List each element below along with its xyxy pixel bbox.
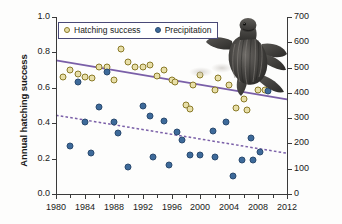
hatching-success-point <box>132 63 139 70</box>
precipitation-point <box>110 119 117 126</box>
precipitation-point <box>139 102 146 109</box>
hatching-success-point <box>67 67 74 74</box>
precipitation-point <box>161 118 168 125</box>
precipitation-point <box>179 137 186 144</box>
hatching-success-point <box>146 61 153 68</box>
precipitation-point <box>81 119 88 126</box>
hatching-success-point <box>172 78 179 85</box>
y-tick-label-left-4: 0.8 <box>24 46 50 56</box>
precipitation-point <box>223 119 230 126</box>
y-tick-right-0 <box>288 194 292 195</box>
precipitation-point <box>103 68 110 75</box>
hatching-success-point <box>186 106 193 113</box>
precipitation-point <box>239 157 246 164</box>
x-minor-tick-1 <box>99 195 100 198</box>
x-tick-6 <box>229 195 230 199</box>
precipitation-point <box>247 135 254 142</box>
x-tick-3 <box>143 195 144 199</box>
y-tick-label-left-5: 1.0 <box>24 11 50 21</box>
x-tick-5 <box>200 195 201 199</box>
precipitation-point <box>74 78 81 85</box>
precipitation-point <box>125 163 132 170</box>
hatching-success-point <box>233 105 240 112</box>
hatching-success-point <box>211 86 218 93</box>
x-minor-tick-4 <box>186 195 187 198</box>
precipitation-point <box>211 153 218 160</box>
precipitation-point <box>96 104 103 111</box>
y-tick-label-right-7: 700 <box>294 11 320 21</box>
hatching-success-point <box>139 64 146 71</box>
hatching-success-point <box>240 96 247 103</box>
hatching-success-point <box>226 82 233 89</box>
y-tick-left-2 <box>52 123 56 124</box>
y-tick-label-right-0: 0 <box>294 188 320 198</box>
hatching-success-point <box>96 63 103 70</box>
precipitation-point <box>87 150 94 157</box>
y-tick-label-left-2: 0.4 <box>24 117 50 127</box>
precipitation-point <box>186 152 193 159</box>
y-tick-label-right-5: 500 <box>294 62 320 72</box>
hatching-success-point <box>161 67 168 74</box>
precipitation-point <box>250 157 257 164</box>
precipitation-point <box>209 128 216 135</box>
precipitation-point <box>146 113 153 120</box>
y-tick-label-left-0: 0.0 <box>24 188 50 198</box>
x-tick-2 <box>114 195 115 199</box>
precipitation-point <box>166 161 173 168</box>
y-tick-left-4 <box>52 52 56 53</box>
precipitation-point <box>173 129 180 136</box>
hatching-success-point <box>74 70 81 77</box>
precipitation-point <box>264 88 271 95</box>
hatching-success-point <box>60 74 67 81</box>
x-tick-1 <box>85 195 86 199</box>
y-tick-label-left-3: 0.6 <box>24 82 50 92</box>
precipitation-point <box>197 152 204 159</box>
x-tick-4 <box>172 195 173 199</box>
y-tick-label-left-1: 0.2 <box>24 153 50 163</box>
legend-item-hatching-success: Hatching success <box>64 25 141 35</box>
x-minor-tick-6 <box>244 195 245 198</box>
y-tick-label-right-2: 200 <box>294 137 320 147</box>
hatching-success-point <box>190 82 197 89</box>
x-tick-label-8: 2012 <box>270 202 304 212</box>
y-tick-right-2 <box>288 143 292 144</box>
y-tick-left-1 <box>52 159 56 160</box>
hatching-success-point <box>197 72 204 79</box>
hatching-success-point <box>244 106 251 113</box>
chart-figure: Annual hatching success Seasonal precipi… <box>0 0 342 224</box>
hatching-success-point <box>255 86 262 93</box>
y-tick-label-right-1: 100 <box>294 163 320 173</box>
x-tick-7 <box>258 195 259 199</box>
precipitation-point <box>229 173 236 180</box>
hatching-success-point <box>117 45 124 52</box>
precipitation-point <box>115 129 122 136</box>
y-axis-left-spine <box>56 17 57 195</box>
precipitation-point <box>150 153 157 160</box>
hatching-success-point <box>215 75 222 82</box>
chart-legend: Hatching success Precipitation <box>58 22 218 39</box>
hatching-success-point <box>89 75 96 82</box>
hatching-success-point <box>81 74 88 81</box>
plot-area <box>56 17 287 194</box>
y-tick-left-5 <box>52 17 56 18</box>
precipitation-point <box>67 143 74 150</box>
legend-item-precipitation: Precipitation <box>155 25 212 35</box>
x-minor-tick-2 <box>128 195 129 198</box>
hatching-success-marker-icon <box>64 27 70 33</box>
hatching-success-point <box>110 76 117 83</box>
hatching-success-point <box>125 59 132 66</box>
precipitation-point <box>257 148 264 155</box>
precipitation-marker-icon <box>155 27 161 33</box>
y-tick-label-right-4: 400 <box>294 87 320 97</box>
x-tick-0 <box>56 195 57 199</box>
y-tick-right-6 <box>288 42 292 43</box>
x-minor-tick-3 <box>157 195 158 198</box>
x-tick-8 <box>287 195 288 199</box>
y-tick-left-3 <box>52 88 56 89</box>
legend-label-hatching-success: Hatching success <box>74 25 141 35</box>
y-tick-right-4 <box>288 93 292 94</box>
x-minor-tick-0 <box>70 195 71 198</box>
x-minor-tick-7 <box>273 195 274 198</box>
x-minor-tick-5 <box>215 195 216 198</box>
hatching-success-point <box>154 73 161 80</box>
